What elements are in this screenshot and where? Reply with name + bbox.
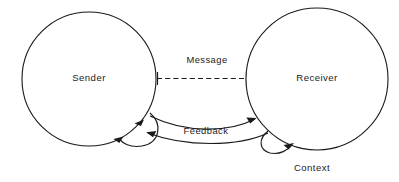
edge-message-label: Message (186, 54, 227, 65)
diagram-canvas: Sender Receiver Message Feedback Context (0, 0, 399, 182)
node-receiver-label: Receiver (296, 72, 338, 83)
edge-message (157, 72, 247, 85)
feedback-lower-arrowhead-icon (146, 131, 156, 137)
communication-model-diagram: Sender Receiver Message Feedback Context (0, 0, 399, 182)
node-sender-label: Sender (72, 72, 106, 83)
edge-feedback-label: Feedback (184, 125, 229, 136)
annotation-context-label: Context (294, 162, 330, 173)
